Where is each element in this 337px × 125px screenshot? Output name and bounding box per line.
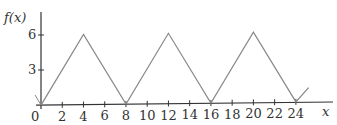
origin-label: 0 <box>31 109 39 124</box>
x-tick-label-14: 14 <box>181 107 198 122</box>
x-axis <box>36 102 333 105</box>
x-tick-labels: 24681012141618202224 <box>58 106 304 124</box>
y-tick-label-6: 6 <box>28 27 36 42</box>
x-tick-label-4: 4 <box>79 109 87 124</box>
x-tick-label-16: 16 <box>203 107 220 122</box>
x-tick-label-6: 6 <box>101 108 109 123</box>
y-axis-label: f(x) <box>3 10 26 25</box>
origin-stub <box>35 95 41 105</box>
x-tick-label-20: 20 <box>245 106 262 121</box>
x-axis-label: x <box>322 104 330 119</box>
y-tick-label-3: 3 <box>28 62 36 77</box>
x-tick-label-2: 2 <box>58 109 66 124</box>
x-tick-label-18: 18 <box>224 107 241 122</box>
data-line <box>41 32 309 105</box>
x-tick-label-22: 22 <box>266 106 283 121</box>
triangle-wave-chart: f(x) x 6 3 0 24681012141618202224 <box>0 0 337 125</box>
x-tick-label-8: 8 <box>122 108 130 123</box>
x-tick-label-24: 24 <box>288 106 305 121</box>
x-tick-label-12: 12 <box>160 108 177 123</box>
x-tick-label-10: 10 <box>139 108 156 123</box>
